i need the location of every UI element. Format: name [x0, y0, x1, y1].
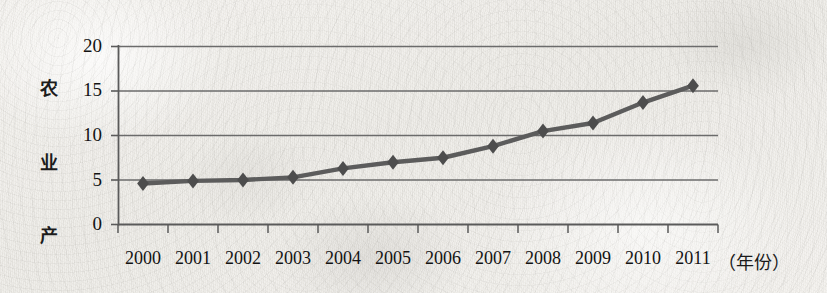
- x-tick-label-2005: 2005: [368, 248, 418, 269]
- x-tick-label-2007: 2007: [468, 248, 518, 269]
- x-tick-label-2009: 2009: [568, 248, 618, 269]
- y-axis-ticks: [111, 47, 118, 225]
- x-axis-title: （年份）: [718, 248, 790, 274]
- x-axis-ticks: [118, 225, 718, 234]
- data-point-marker: [487, 139, 499, 154]
- series-markers: [137, 78, 699, 191]
- data-point-marker: [587, 116, 599, 131]
- x-tick-label-2004: 2004: [318, 248, 368, 269]
- x-tick-label-2000: 2000: [118, 248, 168, 269]
- x-tick-label-2002: 2002: [218, 248, 268, 269]
- chart-page: 农 业 产 出 水 平 指 数 20 15 10 5 0: [0, 0, 827, 293]
- x-tick-label-2011: 2011: [668, 248, 718, 269]
- x-tick-label-2010: 2010: [618, 248, 668, 269]
- x-tick-label-2001: 2001: [168, 248, 218, 269]
- data-point-marker: [387, 155, 399, 170]
- data-point-marker: [337, 161, 349, 176]
- data-point-marker: [137, 176, 149, 191]
- data-point-marker: [237, 173, 249, 188]
- x-tick-label-2006: 2006: [418, 248, 468, 269]
- x-tick-label-2003: 2003: [268, 248, 318, 269]
- data-point-marker: [287, 170, 299, 185]
- data-point-marker: [637, 95, 649, 110]
- data-point-marker: [437, 150, 449, 165]
- series-line: [143, 86, 693, 184]
- x-tick-label-2008: 2008: [518, 248, 568, 269]
- data-point-marker: [187, 173, 199, 188]
